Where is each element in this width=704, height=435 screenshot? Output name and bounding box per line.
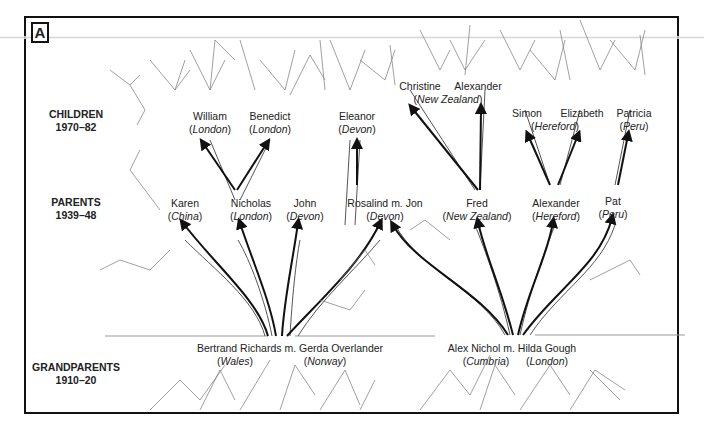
- left-tree-lineage-arrows: [183, 143, 380, 336]
- parent-nicholas: Nicholas (London): [230, 197, 272, 223]
- parent-john: John (Devon): [286, 197, 323, 223]
- grandparent-place-cumbria: (Cumbria): [463, 355, 510, 368]
- child-benedict: Benedict (London): [249, 110, 291, 136]
- generation-title: CHILDREN: [31, 108, 121, 121]
- parent-alexander: Alexander (Hereford): [532, 197, 580, 223]
- child-eleanor: Eleanor (Devon): [338, 110, 375, 136]
- generation-years: 1910–20: [31, 374, 121, 387]
- parent-fred: Fred (New Zealand): [443, 197, 512, 223]
- generation-title: GRANDPARENTS: [31, 361, 121, 374]
- generation-years: 1939–48: [31, 209, 121, 222]
- grandparents-richards-overlander: Bertrand Richards m. Gerda Overlander: [197, 342, 383, 355]
- parent-karen: Karen (China): [168, 197, 202, 223]
- child-elizabeth: Elizabeth: [560, 107, 603, 120]
- grandparents-nichol-gough: Alex Nichol m. Hilda Gough: [448, 342, 576, 355]
- parent-rosalind-jon: Rosalind m. Jon (Devon): [347, 197, 422, 223]
- grandparent-place-norway: (Norway): [304, 355, 347, 368]
- parent-pat: Pat (Peru): [598, 195, 627, 221]
- child-alexander: Alexander: [454, 80, 501, 93]
- generation-label-parents: PARENTS 1939–48: [31, 196, 121, 222]
- generation-label-children: CHILDREN 1970–82: [31, 108, 121, 134]
- child-william: William (London): [189, 110, 231, 136]
- child-christine-alexander-place: (New Zealand): [414, 93, 483, 106]
- generation-label-grandparents: GRANDPARENTS 1910–20: [31, 361, 121, 387]
- child-simon: Simon: [512, 107, 542, 120]
- left-tree-trunks: [185, 140, 380, 336]
- child-patricia: Patricia (Peru): [616, 107, 651, 133]
- generation-years: 1970–82: [31, 121, 121, 134]
- child-simon-elizabeth-place: (Hereford): [531, 120, 579, 133]
- right-tree-trunks: [395, 90, 630, 335]
- generation-title: PARENTS: [31, 196, 121, 209]
- child-christine: Christine: [399, 80, 440, 93]
- grandparent-place-london: (London): [526, 355, 568, 368]
- grandparent-place-wales: (Wales): [217, 355, 253, 368]
